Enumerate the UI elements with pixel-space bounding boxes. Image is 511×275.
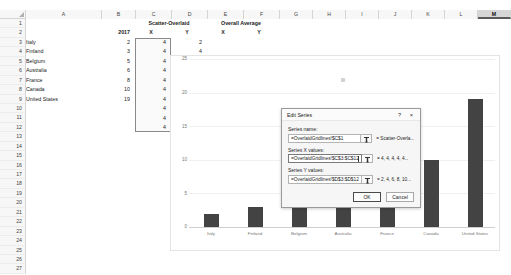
column-header-f[interactable]: F — [244, 10, 280, 19]
chart-bar[interactable] — [468, 99, 483, 227]
field-row-2: =OverlaidGridlines!$C$3:$C$12= 4, 4, 4, … — [288, 154, 414, 163]
chart-xtick-label: Belgium — [291, 231, 307, 236]
row-header-25[interactable]: 25 — [0, 246, 26, 255]
field-label-1: Series name: — [288, 126, 414, 132]
chart-bar[interactable] — [424, 160, 439, 227]
subheader-b[interactable]: 2017 — [102, 28, 133, 37]
cell-scatterx-3[interactable]: 4 — [136, 57, 169, 66]
row-header-4[interactable]: 4 — [0, 47, 26, 56]
range-picker-icon[interactable] — [361, 134, 372, 143]
cell-value2017-2[interactable]: 3 — [102, 47, 133, 56]
cell-value2017-5[interactable]: 8 — [102, 76, 133, 85]
column-header-e[interactable]: E — [208, 10, 244, 19]
row-header-13[interactable]: 13 — [0, 132, 26, 141]
chart-bar[interactable] — [204, 214, 219, 227]
dialog-titlebar[interactable]: Edit Series ? × — [282, 109, 420, 121]
select-all-corner[interactable] — [0, 10, 26, 19]
row-header-7[interactable]: 7 — [0, 76, 26, 85]
row-header-16[interactable]: 16 — [0, 161, 26, 170]
cell-value2017-6[interactable]: 10 — [102, 85, 133, 94]
range-picker-icon[interactable] — [362, 154, 373, 163]
row-header-24[interactable]: 24 — [0, 236, 26, 245]
column-header-a[interactable]: A — [26, 10, 102, 19]
column-header-g[interactable]: G — [280, 10, 313, 19]
row-header-23[interactable]: 23 — [0, 227, 26, 236]
cell-country-3[interactable]: Belgium — [26, 57, 99, 66]
range-picker-icon[interactable] — [362, 175, 373, 184]
column-header-row[interactable]: ABCDEFGHIJKLMNO — [26, 10, 511, 19]
cell-value2017-7[interactable]: 19 — [102, 95, 133, 104]
column-header-m[interactable]: M — [478, 10, 511, 19]
row-header-9[interactable]: 9 — [0, 95, 26, 104]
cell-country-6[interactable]: Canada — [26, 85, 99, 94]
cell-scatterx-1[interactable]: 4 — [136, 38, 169, 47]
row-header-11[interactable]: 11 — [0, 113, 26, 122]
cell-scattery-1[interactable]: 2 — [172, 38, 205, 47]
subheader-f[interactable]: Y — [244, 28, 277, 37]
cell-scatterx-8[interactable]: 4 — [136, 104, 169, 113]
column-header-j[interactable]: J — [379, 10, 412, 19]
subheader-d[interactable]: Y — [172, 28, 205, 37]
row-header-8[interactable]: 8 — [0, 85, 26, 94]
cell-country-4[interactable]: Australia — [26, 66, 99, 75]
row-header-21[interactable]: 21 — [0, 208, 26, 217]
subheader-e[interactable]: X — [208, 28, 241, 37]
column-header-k[interactable]: K — [412, 10, 445, 19]
help-icon[interactable]: ? — [395, 111, 404, 119]
group-header-c[interactable]: Scatter-Overlaid — [136, 19, 205, 28]
cell-scatterx-10[interactable]: 4 — [136, 123, 169, 132]
cell-value2017-1[interactable]: 2 — [102, 38, 133, 47]
chart-bar[interactable] — [248, 207, 263, 227]
ok-button[interactable]: OK — [353, 192, 381, 202]
row-header-column[interactable]: 1234567891011121314151617181920212223242… — [0, 19, 26, 274]
row-header-14[interactable]: 14 — [0, 142, 26, 151]
row-header-27[interactable]: 27 — [0, 264, 26, 273]
row-header-19[interactable]: 19 — [0, 189, 26, 198]
column-header-i[interactable]: I — [346, 10, 379, 19]
dialog-title: Edit Series — [287, 111, 312, 119]
cell-scatterx-2[interactable]: 4 — [136, 47, 169, 56]
row-header-15[interactable]: 15 — [0, 151, 26, 160]
row-header-1[interactable]: 1 — [0, 19, 26, 28]
row-header-12[interactable]: 12 — [0, 123, 26, 132]
cell-value2017-3[interactable]: 5 — [102, 57, 133, 66]
group-header-e[interactable]: Overall Average — [208, 19, 277, 28]
row-header-22[interactable]: 22 — [0, 217, 26, 226]
chart-scatter-point[interactable] — [342, 79, 345, 82]
close-icon[interactable]: × — [407, 111, 416, 119]
column-header-l[interactable]: L — [445, 10, 478, 19]
row-header-3[interactable]: 3 — [0, 38, 26, 47]
series-input-2[interactable]: =OverlaidGridlines!$C$3:$C$12 — [288, 154, 362, 163]
series-input-3[interactable]: =OverlaidGridlines!$D$3:$D$12 — [288, 175, 362, 184]
cell-country-5[interactable]: France — [26, 76, 99, 85]
cell-country-2[interactable]: Finland — [26, 47, 99, 56]
row-header-5[interactable]: 5 — [0, 57, 26, 66]
row-header-2[interactable]: 2 — [0, 28, 26, 37]
edit-series-dialog[interactable]: Edit Series ? × Series name:=OverlaidGri… — [281, 108, 421, 208]
cell-country-7[interactable]: United States — [26, 95, 99, 104]
series-input-1[interactable]: =OverlaidGridlines!$C$1 — [288, 134, 361, 143]
row-header-18[interactable]: 18 — [0, 179, 26, 188]
column-header-b[interactable]: B — [102, 10, 136, 19]
cell-scatterx-7[interactable]: 4 — [136, 95, 169, 104]
row-header-6[interactable]: 6 — [0, 66, 26, 75]
row-header-26[interactable]: 26 — [0, 255, 26, 264]
column-header-h[interactable]: H — [313, 10, 346, 19]
column-header-c[interactable]: C — [136, 10, 172, 19]
cell-value2017-4[interactable]: 6 — [102, 66, 133, 75]
subheader-c[interactable]: X — [136, 28, 169, 37]
chart-xtick-label: Finland — [248, 231, 262, 236]
cell-scatterx-9[interactable]: 4 — [136, 114, 169, 123]
column-header-d[interactable]: D — [172, 10, 208, 19]
dialog-body: Series name:=OverlaidGridlines!$C$1= Sca… — [282, 121, 420, 184]
cancel-button[interactable]: Cancel — [386, 192, 414, 202]
row-header-20[interactable]: 20 — [0, 198, 26, 207]
cell-scatterx-4[interactable]: 4 — [136, 66, 169, 75]
field-row-3: =OverlaidGridlines!$D$3:$D$12= 2, 4, 6, … — [288, 175, 414, 184]
cell-country-1[interactable]: Italy — [26, 38, 99, 47]
cell-scatterx-5[interactable]: 4 — [136, 76, 169, 85]
chart-ytick-label: 15 — [182, 125, 187, 130]
row-header-17[interactable]: 17 — [0, 170, 26, 179]
cell-scatterx-6[interactable]: 4 — [136, 85, 169, 94]
row-header-10[interactable]: 10 — [0, 104, 26, 113]
